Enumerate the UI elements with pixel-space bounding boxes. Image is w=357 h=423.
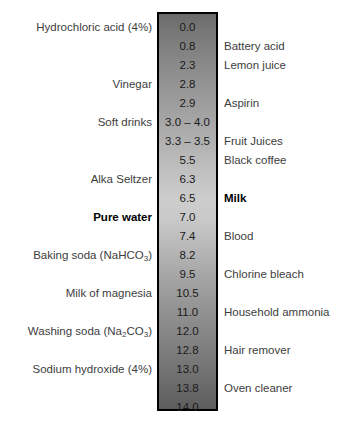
ph-value: 3.3 – 3.5 bbox=[157, 132, 218, 151]
ph-left-label: Alka Seltzer bbox=[0, 170, 152, 189]
ph-row: 14.0 bbox=[0, 398, 357, 417]
ph-value: 8.2 bbox=[157, 246, 218, 265]
ph-row: Alka Seltzer6.3 bbox=[0, 170, 357, 189]
ph-value: 2.3 bbox=[157, 56, 218, 75]
ph-right-label: Black coffee bbox=[224, 151, 357, 170]
ph-value: 3.0 – 4.0 bbox=[157, 113, 218, 132]
ph-row: Hydrochloric acid (4%)0.0 bbox=[0, 18, 357, 37]
ph-value: 0.0 bbox=[157, 18, 218, 37]
ph-row: Milk of magnesia10.5 bbox=[0, 284, 357, 303]
ph-right-label: Battery acid bbox=[224, 37, 357, 56]
ph-scale-diagram: Hydrochloric acid (4%)0.00.8Battery acid… bbox=[0, 0, 357, 423]
ph-left-label: Vinegar bbox=[0, 75, 152, 94]
ph-right-label: Lemon juice bbox=[224, 56, 357, 75]
ph-left-label: Sodium hydroxide (4%) bbox=[0, 360, 152, 379]
ph-value: 7.0 bbox=[157, 208, 218, 227]
ph-row: Pure water7.0 bbox=[0, 208, 357, 227]
ph-row: 12.8Hair remover bbox=[0, 341, 357, 360]
ph-left-label: Hydrochloric acid (4%) bbox=[0, 18, 152, 37]
ph-value: 13.0 bbox=[157, 360, 218, 379]
ph-right-label: Aspirin bbox=[224, 94, 357, 113]
ph-value: 6.5 bbox=[157, 189, 218, 208]
ph-left-label: Soft drinks bbox=[0, 113, 152, 132]
ph-value: 5.5 bbox=[157, 151, 218, 170]
ph-row: 9.5Chlorine bleach bbox=[0, 265, 357, 284]
ph-row-container: Hydrochloric acid (4%)0.00.8Battery acid… bbox=[0, 12, 357, 411]
ph-row: 2.9Aspirin bbox=[0, 94, 357, 113]
ph-row: Sodium hydroxide (4%)13.0 bbox=[0, 360, 357, 379]
ph-row: Baking soda (NaHCO3)8.2 bbox=[0, 246, 357, 265]
ph-value: 6.3 bbox=[157, 170, 218, 189]
ph-right-label: Chlorine bleach bbox=[224, 265, 357, 284]
ph-right-label: Milk bbox=[224, 189, 357, 208]
ph-right-label: Fruit Juices bbox=[224, 132, 357, 151]
ph-right-label: Oven cleaner bbox=[224, 379, 357, 398]
ph-row: 13.8Oven cleaner bbox=[0, 379, 357, 398]
ph-row: 6.5Milk bbox=[0, 189, 357, 208]
ph-row: Soft drinks3.0 – 4.0 bbox=[0, 113, 357, 132]
ph-row: 3.3 – 3.5Fruit Juices bbox=[0, 132, 357, 151]
ph-value: 7.4 bbox=[157, 227, 218, 246]
ph-left-label: Milk of magnesia bbox=[0, 284, 152, 303]
ph-value: 2.8 bbox=[157, 75, 218, 94]
ph-row: 11.0Household ammonia bbox=[0, 303, 357, 322]
ph-value: 14.0 bbox=[157, 398, 218, 417]
ph-right-label: Blood bbox=[224, 227, 357, 246]
ph-row: 7.4Blood bbox=[0, 227, 357, 246]
ph-right-label: Household ammonia bbox=[224, 303, 357, 322]
ph-row: 2.3Lemon juice bbox=[0, 56, 357, 75]
ph-value: 11.0 bbox=[157, 303, 218, 322]
ph-value: 2.9 bbox=[157, 94, 218, 113]
ph-row: 0.8Battery acid bbox=[0, 37, 357, 56]
ph-left-label: Pure water bbox=[0, 208, 152, 227]
ph-row: Vinegar2.8 bbox=[0, 75, 357, 94]
ph-value: 10.5 bbox=[157, 284, 218, 303]
ph-value: 12.0 bbox=[157, 322, 218, 341]
ph-value: 12.8 bbox=[157, 341, 218, 360]
ph-value: 13.8 bbox=[157, 379, 218, 398]
ph-row: Washing soda (Na2CO3)12.0 bbox=[0, 322, 357, 341]
ph-value: 9.5 bbox=[157, 265, 218, 284]
ph-row: 5.5Black coffee bbox=[0, 151, 357, 170]
ph-right-label: Hair remover bbox=[224, 341, 357, 360]
ph-value: 0.8 bbox=[157, 37, 218, 56]
